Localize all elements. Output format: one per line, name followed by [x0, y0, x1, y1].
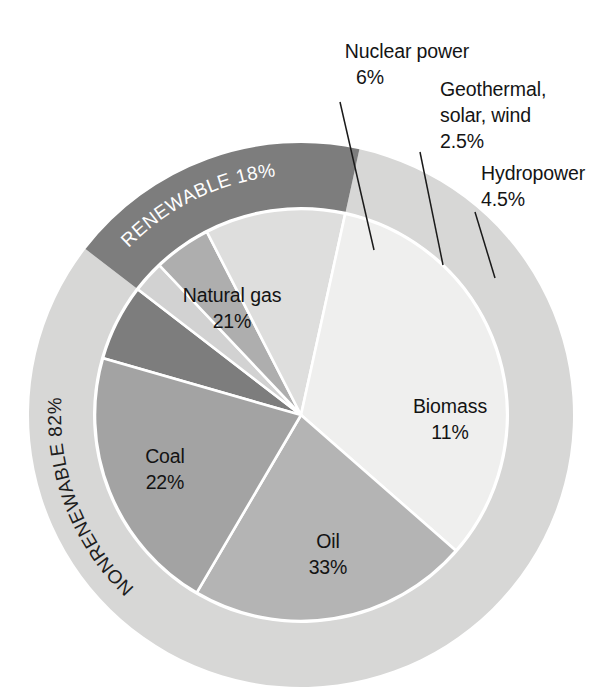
- label-natural-gas-name: Natural gas: [183, 284, 282, 306]
- callout-nuclear-name: Nuclear power: [345, 40, 470, 62]
- callout-nuclear-value: 6%: [356, 66, 384, 88]
- pie-chart-svg: RENEWABLE 18%NONRENEWABLE 82% Natural ga…: [0, 0, 615, 697]
- callout-geothermal-line1: Geothermal,: [440, 78, 546, 100]
- label-biomass-value: 11%: [431, 421, 468, 443]
- label-oil-value: 33%: [309, 556, 348, 578]
- label-natural-gas-value: 21%: [213, 310, 252, 332]
- label-coal-name: Coal: [145, 445, 185, 467]
- callout-hydropower-value: 4.5%: [481, 188, 525, 210]
- callout-geothermal-line2: solar, wind: [440, 104, 531, 126]
- callout-hydropower-name: Hydropower: [481, 162, 586, 184]
- label-coal-value: 22%: [146, 471, 185, 493]
- callout-geothermal-value: 2.5%: [440, 130, 484, 152]
- label-oil-name: Oil: [316, 530, 340, 552]
- label-biomass-name: Biomass: [413, 395, 487, 417]
- pie-chart-figure: RENEWABLE 18%NONRENEWABLE 82% Natural ga…: [0, 0, 615, 697]
